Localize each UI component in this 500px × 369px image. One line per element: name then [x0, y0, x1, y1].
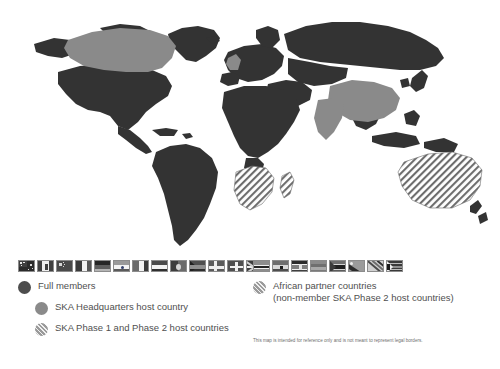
legend-entry-full-members: Full members: [18, 280, 240, 294]
sweden-flag: [208, 260, 225, 272]
headquarters-host-swatch-icon: [35, 302, 48, 315]
map-disclaimer-footnote: This map is intended for reference only …: [253, 337, 493, 344]
china-flag: [56, 260, 73, 272]
african-partners-swatch-icon: [253, 281, 266, 294]
world-map: [0, 0, 500, 252]
kenya-flag: [291, 260, 308, 272]
full-members-swatch-icon: [18, 281, 31, 294]
partner-flags-row: [253, 258, 491, 273]
france-flag: [75, 260, 92, 272]
legend-entry-african-partners: African partner countries (non-member SK…: [253, 280, 491, 304]
legend-entry-label: African partner countries (non-member SK…: [273, 280, 454, 304]
botswana-flag: [253, 260, 270, 272]
legend-entry-label: Full members: [38, 280, 96, 292]
legend-entry-label: SKA Headquarters host country: [55, 301, 188, 313]
legend-entry-headquarters-host: SKA Headquarters host country: [35, 301, 240, 315]
legend-entry-label: SKA Phase 1 and Phase 2 host countries: [55, 322, 229, 334]
south-africa-flag: [189, 260, 206, 272]
phase-hosts-swatch-icon: [35, 323, 48, 336]
australia-flag: [18, 260, 35, 272]
canada-flag: [37, 260, 54, 272]
member-flags-row: [18, 258, 240, 273]
india-flag: [113, 260, 130, 272]
legend: Full members SKA Headquarters host count…: [0, 252, 500, 369]
mozambique-flag: [329, 260, 346, 272]
zambia-flag: [367, 260, 384, 272]
ghana-flag: [272, 260, 289, 272]
legend-partners-column: African partner countries (non-member SK…: [253, 258, 491, 304]
netherlands-flag: [151, 260, 168, 272]
legend-members-column: Full members SKA Headquarters host count…: [18, 258, 240, 336]
zimbabwe-flag: [386, 260, 403, 272]
switzerland-flag: [227, 260, 244, 272]
portugal-flag: [170, 260, 187, 272]
italy-flag: [132, 260, 149, 272]
namibia-flag: [348, 260, 365, 272]
mauritius-flag: [310, 260, 327, 272]
legend-entry-phase-hosts: SKA Phase 1 and Phase 2 host countries: [35, 322, 240, 336]
germany-flag: [94, 260, 111, 272]
world-map-svg: [0, 0, 500, 252]
